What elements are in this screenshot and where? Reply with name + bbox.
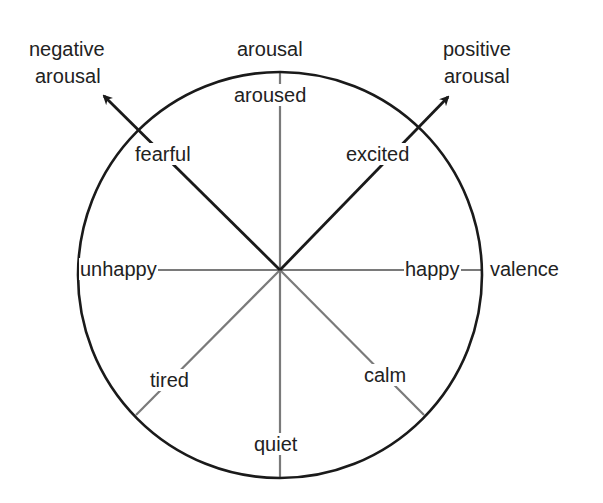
arousal-axis-label: arousal: [236, 38, 304, 60]
positive-arousal-arrow: [280, 97, 448, 270]
negative-arousal-arrow: [104, 96, 280, 270]
spoke-lower-left: [136, 270, 280, 415]
positive-arousal-label-line1: positive: [442, 38, 512, 60]
emotion-label-aroused: aroused: [233, 84, 307, 106]
emotion-label-calm: calm: [363, 364, 407, 386]
emotion-label-happy: happy: [404, 258, 461, 280]
emotion-label-tired: tired: [149, 369, 190, 391]
spoke-lower-right: [280, 270, 424, 415]
negative-arousal-label-line1: negative: [28, 38, 106, 60]
emotion-label-fearful: fearful: [134, 143, 192, 165]
emotion-label-unhappy: unhappy: [79, 258, 158, 280]
emotion-label-excited: excited: [345, 143, 410, 165]
positive-arousal-label-line2: arousal: [443, 65, 511, 87]
emotion-label-quiet: quiet: [253, 433, 298, 455]
valence-axis-label: valence: [489, 258, 560, 280]
negative-arousal-label-line2: arousal: [34, 65, 102, 87]
